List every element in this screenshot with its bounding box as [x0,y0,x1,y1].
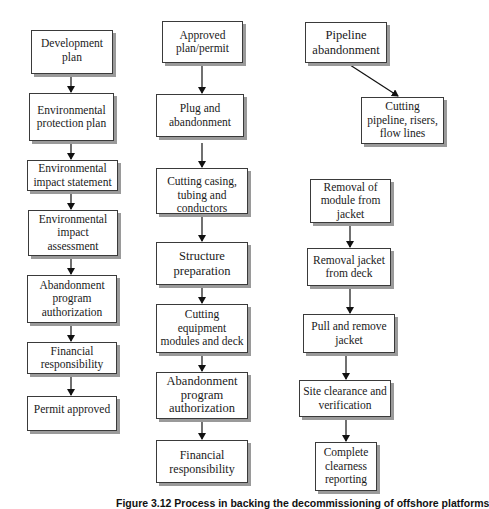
node-label: Site clearance and verification [303,385,387,412]
node-label: Plug and abandonment [169,102,231,129]
node-environmental-impact-assessment: Environmental impact assessment [28,210,118,256]
node-environmental-impact-statement: Environmental impact statement [27,160,118,191]
node-site-clearance-and-verification: Site clearance and verification [299,380,391,417]
node-environmental-protection-plan: Environmental protection plan [29,93,114,141]
node-cutting-pipeline-risers-flow-lines: Cutting pipeline, risers, flow lines [361,97,444,144]
node-abandonment-program-authorization-1: Abandonment program authorization [27,275,117,323]
node-label: Pipeline abandonment [312,28,379,58]
node-label: Removal of module from jacket [321,181,381,222]
node-removal-jacket-from-deck: Removal jacket from deck [307,248,391,286]
node-label: Removal jacket from deck [313,254,385,281]
node-pull-and-remove-jacket: Pull and remove jacket [303,314,395,353]
node-development-plan: Development plan [31,30,113,74]
arrow-c3-diagonal [347,63,398,96]
node-label: Approved plan/permit [176,29,229,56]
node-financial-responsibility-2: Financial responsibility [156,440,248,483]
node-label: Permit approved [34,403,110,417]
node-label: Financial responsibility [169,448,234,476]
node-pipeline-abandonment: Pipeline abandonment [305,22,387,63]
node-abandonment-program-authorization-2: Abandonment program authorization [156,372,248,419]
node-structure-preparation: Structure preparation [156,242,248,285]
node-label: Environmental impact statement [33,162,111,189]
node-cutting-casing-tubing-conductors: Cutting casing, tubing and conductors [156,168,248,214]
node-label: Environmental impact assessment [39,213,107,254]
node-label: Cutting pipeline, risers, flow lines [367,100,438,141]
node-approved-plan-permit: Approved plan/permit [162,21,243,63]
node-label: Development plan [41,37,103,64]
node-label: Abandonment program authorization [167,375,238,416]
node-cutting-equipment-modules-deck: Cutting equipment modules and deck [156,304,248,353]
node-financial-responsibility-1: Financial responsibility [27,342,117,374]
node-label: Structure preparation [174,249,231,279]
node-label: Environmental protection plan [37,104,106,131]
node-complete-clearness-reporting: Complete clearness reporting [315,442,377,491]
node-label: Cutting equipment modules and deck [160,308,243,349]
node-label: Pull and remove jacket [311,320,386,347]
node-permit-approved: Permit approved [27,396,117,431]
node-label: Cutting casing, tubing and conductors [167,175,237,216]
node-plug-and-abandonment: Plug and abandonment [156,94,244,137]
node-removal-of-module-from-jacket: Removal of module from jacket [310,179,391,223]
node-label: Complete clearness reporting [324,446,369,487]
node-label: Financial responsibility [41,345,104,372]
figure-caption: Figure 3.12 Process in backing the decom… [116,497,489,509]
node-label: Abandonment program authorization [39,279,104,320]
